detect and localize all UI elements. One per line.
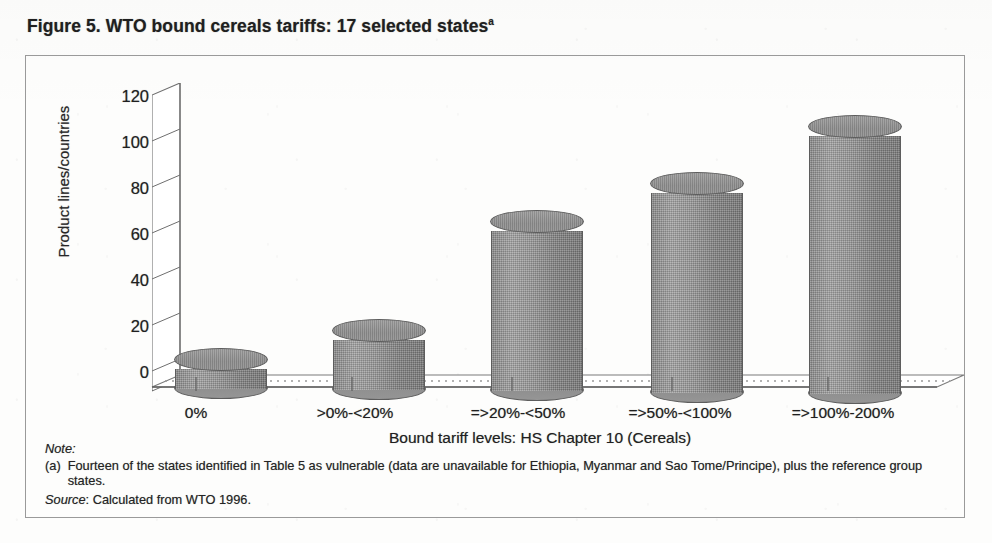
bar-top-ellipse xyxy=(650,172,744,195)
x-tick-label-0: 0% xyxy=(185,404,207,422)
x-tick-label-2: =>20%-<50% xyxy=(471,404,565,422)
bar-body xyxy=(491,231,583,391)
bar-gt0-lt20pct[interactable] xyxy=(333,55,425,405)
bar-top-ellipse xyxy=(490,210,584,233)
source-text: : Calculated from WTO 1996. xyxy=(86,492,251,507)
bar-body xyxy=(809,136,901,394)
figure-notes: Note: (a) Fourteen of the states identif… xyxy=(45,441,945,507)
source-line: Source: Calculated from WTO 1996. xyxy=(45,492,945,508)
bar-gte100-200pct[interactable] xyxy=(809,55,901,405)
bar-top-ellipse xyxy=(332,319,426,342)
bar-top-ellipse xyxy=(174,348,268,371)
chart-bars xyxy=(25,55,965,405)
note-heading: Note: xyxy=(45,441,945,457)
x-tick-label-3: =>50%-<100% xyxy=(629,404,732,422)
source-label: Source xyxy=(45,492,86,507)
figure-title: Figure 5. WTO bound cereals tariffs: 17 … xyxy=(27,16,494,37)
bar-body xyxy=(651,193,743,393)
note-item-a: (a) Fourteen of the states identified in… xyxy=(45,458,945,489)
x-tick-label-1: >0%-<20% xyxy=(317,404,394,422)
bar-gte50-lt100pct[interactable] xyxy=(651,55,743,405)
x-tick-label-4: =>100%-200% xyxy=(792,404,895,422)
bar-0pct[interactable] xyxy=(175,55,267,405)
chart-plot-area: Product lines/countries 120 100 80 60 40… xyxy=(25,55,965,405)
document-page: Figure 5. WTO bound cereals tariffs: 17 … xyxy=(0,0,992,543)
note-marker: (a) xyxy=(45,458,61,489)
figure-title-text: Figure 5. WTO bound cereals tariffs: 17 … xyxy=(27,16,488,36)
bar-top-ellipse xyxy=(808,115,902,138)
note-text: Fourteen of the states identified in Tab… xyxy=(68,458,945,489)
bar-gte20-lt50pct[interactable] xyxy=(491,55,583,405)
figure-title-footnote-marker: a xyxy=(488,16,494,27)
